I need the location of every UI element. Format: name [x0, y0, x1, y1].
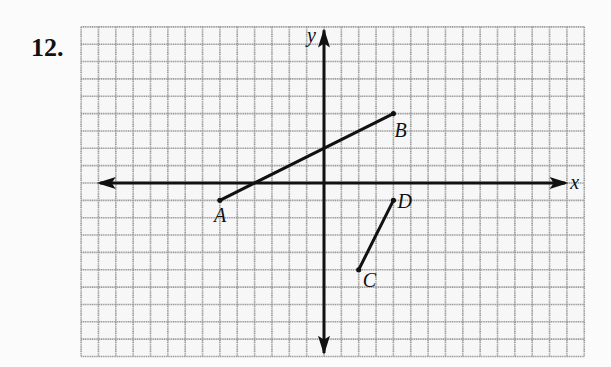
- point-A: [217, 198, 222, 203]
- label-B: B: [394, 119, 406, 141]
- label-A: A: [212, 204, 227, 226]
- grid-background: [81, 27, 584, 357]
- point-B: [391, 111, 396, 116]
- point-C: [356, 267, 361, 272]
- point-D: [391, 198, 396, 203]
- label-D: D: [396, 190, 412, 212]
- coordinate-grid: xyABCD: [0, 0, 611, 367]
- y-axis-label: y: [305, 24, 316, 47]
- x-axis-label: x: [569, 171, 579, 193]
- label-C: C: [363, 269, 377, 291]
